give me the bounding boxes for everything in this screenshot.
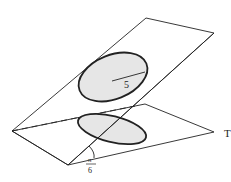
projected-ellipse — [75, 108, 149, 150]
radius-label: 5 — [124, 79, 129, 90]
angle-denominator: 6 — [88, 166, 92, 175]
angle-numerator: π — [88, 156, 92, 164]
edge-label: T — [224, 127, 231, 139]
inclined-circle — [71, 43, 154, 111]
projection-diagram: 5 π 6 T — [0, 0, 231, 182]
